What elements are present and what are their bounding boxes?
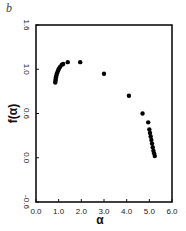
x-tick-label: 5.0 [144, 207, 156, 216]
y-tick-label: 1.6 [22, 19, 31, 31]
data-point [140, 111, 144, 115]
data-point [153, 154, 157, 158]
x-tick-label: 0.0 [30, 207, 42, 216]
data-point [146, 120, 150, 124]
y-tick-label: 0.6 [22, 108, 31, 120]
x-tick-label: 1.0 [53, 207, 65, 216]
y-tick-label: 0.0 [22, 152, 31, 164]
plot-frame [36, 25, 172, 202]
data-point [127, 94, 131, 98]
data-point [78, 60, 82, 64]
scatter-chart: 0.01.02.03.04.05.06.01.61.00.60.0-0.6αf(… [0, 0, 186, 231]
y-axis-title: f(α) [6, 104, 20, 123]
x-tick-label: 2.0 [76, 207, 88, 216]
x-tick-label: 4.0 [121, 207, 133, 216]
x-axis-title: α [96, 213, 104, 227]
data-point [102, 71, 106, 75]
y-tick-label: 1.0 [22, 64, 31, 76]
data-point [66, 60, 70, 64]
x-tick-label: 6.0 [166, 207, 178, 216]
y-tick-label: -0.6 [22, 195, 31, 209]
data-point [61, 62, 65, 66]
